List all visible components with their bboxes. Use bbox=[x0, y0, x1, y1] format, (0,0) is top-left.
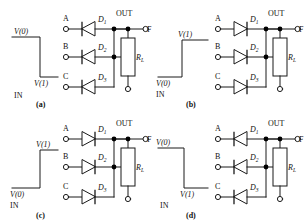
figure-sheet: V(0) V(1) IN (a) A B C D1 D2 D3 OUT F RL bbox=[0, 0, 304, 220]
diode-label-b-1: D1 bbox=[249, 15, 259, 25]
input-row-b-2 bbox=[215, 50, 280, 64]
diode-label-a-3: D3 bbox=[97, 73, 107, 83]
resistor-label-c: RL bbox=[135, 163, 144, 173]
input-row-d-2 bbox=[215, 160, 280, 174]
diode-label-d-3: D3 bbox=[249, 183, 259, 193]
output-label-d: OUT bbox=[268, 119, 285, 128]
panel-c: V(1) V(0) IN (c) A B C D1 D2 D3 OUT F RL bbox=[0, 110, 152, 220]
input-terminal-label-c-2: B bbox=[63, 152, 68, 161]
input-terminal-label-d-2: B bbox=[215, 152, 220, 161]
input-row-c-2 bbox=[63, 160, 128, 174]
input-label-a: IN bbox=[14, 91, 23, 100]
waveform-a bbox=[12, 37, 58, 77]
diode-label-d-2: D2 bbox=[249, 153, 259, 163]
input-terminal-label-b-1: A bbox=[215, 14, 221, 23]
waveform-level-end-a: V(1) bbox=[34, 79, 49, 88]
panel-a: V(0) V(1) IN (a) A B C D1 D2 D3 OUT F RL bbox=[0, 0, 152, 110]
input-terminal-label-b-2: B bbox=[215, 42, 220, 51]
input-row-d-3 bbox=[215, 139, 266, 204]
output-terminal-label-d: F bbox=[299, 135, 304, 144]
output-label-c: OUT bbox=[116, 119, 133, 128]
input-terminal-label-a-3: C bbox=[63, 72, 68, 81]
diode-label-a-1: D1 bbox=[97, 15, 107, 25]
panel-c-svg: V(1) V(0) IN (c) A B C D1 D2 D3 OUT F RL bbox=[0, 110, 152, 220]
input-terminal-label-d-3: C bbox=[215, 182, 220, 191]
output-label-b: OUT bbox=[268, 9, 285, 18]
waveform-d bbox=[158, 148, 208, 188]
panel-b-svg: V(1) V(0) IN (b) A B C D1 D2 D3 OUT F RL bbox=[152, 0, 304, 110]
resistor-label-d: RL bbox=[287, 163, 296, 173]
input-terminal-label-c-3: C bbox=[63, 182, 68, 191]
input-terminal-label-d-1: A bbox=[215, 124, 221, 133]
waveform-level-end-c: V(1) bbox=[36, 140, 51, 149]
input-row-a-2 bbox=[63, 50, 128, 64]
waveform-level-end-d: V(1) bbox=[180, 190, 195, 199]
diode-label-b-2: D2 bbox=[249, 43, 259, 53]
input-row-c-3 bbox=[63, 139, 114, 204]
input-terminal-label-a-1: A bbox=[63, 14, 69, 23]
panel-caption-c: (c) bbox=[36, 211, 45, 220]
diode-label-b-3: D3 bbox=[249, 73, 259, 83]
diode-label-c-1: D1 bbox=[97, 125, 107, 135]
output-terminal-label-b: F bbox=[299, 25, 304, 34]
diode-label-a-2: D2 bbox=[97, 43, 107, 53]
panel-caption-a: (a) bbox=[36, 100, 46, 109]
input-label-b: IN bbox=[156, 90, 165, 99]
input-terminal-label-b-3: C bbox=[215, 72, 220, 81]
diode-label-d-1: D1 bbox=[249, 125, 259, 135]
input-row-b-3 bbox=[215, 29, 266, 94]
panel-d-svg: V(0) V(1) IN (d) A B C D1 D2 D3 OUT F RL bbox=[152, 110, 304, 220]
waveform-level-start-d: V(0) bbox=[156, 138, 171, 147]
panel-d: V(0) V(1) IN (d) A B C D1 D2 D3 OUT F RL bbox=[152, 110, 304, 220]
input-label-c: IN bbox=[10, 201, 19, 210]
input-label-d: IN bbox=[160, 201, 169, 210]
panel-caption-d: (d) bbox=[186, 211, 196, 220]
panel-caption-b: (b) bbox=[186, 100, 196, 109]
diode-label-c-3: D3 bbox=[97, 183, 107, 193]
input-terminal-label-c-1: A bbox=[63, 124, 69, 133]
waveform-level-end-b: V(1) bbox=[178, 30, 193, 39]
panel-a-svg: V(0) V(1) IN (a) A B C D1 D2 D3 OUT F RL bbox=[0, 0, 152, 110]
waveform-level-start-b: V(0) bbox=[156, 79, 171, 88]
waveform-c bbox=[12, 150, 58, 188]
resistor-label-a: RL bbox=[135, 53, 144, 63]
resistor-label-b: RL bbox=[287, 53, 296, 63]
input-terminal-label-a-2: B bbox=[63, 42, 68, 51]
input-row-a-3 bbox=[63, 29, 114, 94]
panel-b: V(1) V(0) IN (b) A B C D1 D2 D3 OUT F RL bbox=[152, 0, 304, 110]
waveform-level-start-a: V(0) bbox=[14, 27, 29, 36]
diode-label-c-2: D2 bbox=[97, 153, 107, 163]
output-label-a: OUT bbox=[116, 9, 133, 18]
waveform-b bbox=[158, 40, 208, 77]
waveform-level-start-c: V(0) bbox=[10, 190, 25, 199]
